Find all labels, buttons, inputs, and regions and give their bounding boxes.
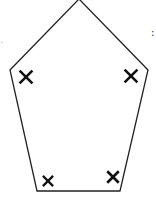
angle-mark-bottom-left-icon <box>43 176 53 186</box>
pentagon-shape <box>10 0 148 191</box>
right-edge-fragment: : <box>151 28 154 38</box>
angle-mark-right-icon <box>125 70 138 83</box>
left-edge-fragment: · <box>0 38 3 48</box>
angle-mark-left-icon <box>20 71 33 84</box>
angle-mark-bottom-right-icon <box>107 171 119 183</box>
pentagon-diagram <box>0 0 156 197</box>
angle-marks <box>20 70 138 187</box>
